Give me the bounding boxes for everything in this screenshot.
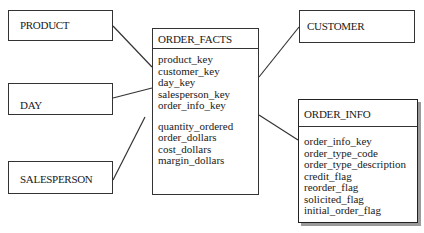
fact-table-order-facts: ORDER_FACTS product_key customer_key day…: [152, 28, 259, 195]
link-customer-orderfacts: [259, 27, 299, 77]
order-info-attr: order_info_key: [304, 136, 417, 148]
fact-measure-margin-dollars: margin_dollars: [158, 155, 258, 167]
order-info-header: ORDER_INFO: [299, 100, 417, 127]
order-info-attributes: order_info_key order_type_code order_typ…: [299, 127, 417, 217]
dimension-salesperson: SALESPERSON: [8, 161, 113, 194]
link-orderinfo-orderfacts: [259, 115, 298, 140]
link-day-orderfacts: [113, 88, 152, 98]
dimension-order-info: ORDER_INFO order_info_key order_type_cod…: [298, 99, 418, 223]
order-info-attr: reorder_flag: [304, 182, 417, 194]
dimension-customer: CUSTOMER: [299, 10, 415, 43]
order-info-attr: initial_order_flag: [304, 205, 417, 217]
dimension-customer-label: CUSTOMER: [307, 20, 364, 32]
order-info-attr: order_type_description: [304, 159, 417, 171]
fact-table-attributes: product_key customer_key day_key salespe…: [153, 49, 258, 167]
dimension-day-label: DAY: [20, 99, 42, 111]
fact-table-header: ORDER_FACTS: [153, 29, 258, 49]
dimension-product: PRODUCT: [8, 10, 113, 41]
dimension-product-label: PRODUCT: [20, 19, 69, 31]
link-salesperson-orderfacts: [113, 117, 145, 180]
fact-key-order-info: order_info_key: [158, 100, 258, 112]
dimension-day: DAY: [8, 83, 113, 115]
fact-measure-order-dollars: order_dollars: [158, 132, 258, 144]
fact-key-product: product_key: [158, 54, 258, 66]
link-product-orderfacts: [113, 26, 152, 67]
fact-key-day: day_key: [158, 77, 258, 89]
dimension-salesperson-label: SALESPERSON: [20, 173, 93, 185]
